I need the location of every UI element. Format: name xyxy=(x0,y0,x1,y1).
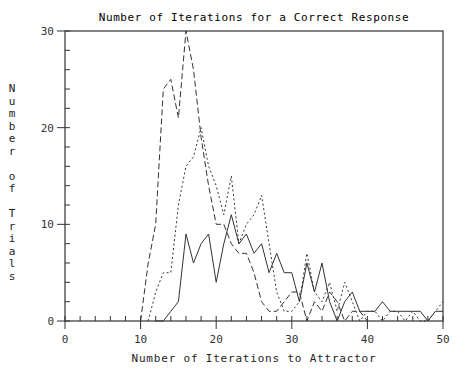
y-label-char: u xyxy=(9,95,16,108)
x-tick-label: 50 xyxy=(436,333,449,346)
plot-border xyxy=(65,31,443,321)
y-tick-label: 30 xyxy=(41,25,54,38)
series-layer xyxy=(141,31,443,321)
y-tick-label: 0 xyxy=(47,315,54,328)
x-axis-label: Number of Iterations to Attractor xyxy=(132,352,377,365)
series-long-dash xyxy=(141,31,368,321)
x-tick-label: 0 xyxy=(62,333,69,346)
chart-title: Number of Iterations for a Correct Respo… xyxy=(99,11,410,24)
y-axis-label: NumberofTrials xyxy=(9,82,16,283)
y-label-char: l xyxy=(9,257,16,270)
series-solid xyxy=(156,215,443,321)
y-label-char: a xyxy=(9,245,16,258)
y-label-char: o xyxy=(9,170,16,183)
y-label-char: r xyxy=(9,220,16,233)
plot-frame xyxy=(65,31,443,321)
x-tick-label: 20 xyxy=(210,333,223,346)
y-label-char: b xyxy=(9,120,16,133)
y-label-char: f xyxy=(9,182,16,195)
y-label-char: s xyxy=(9,270,16,283)
y-label-char: T xyxy=(9,207,16,220)
x-tick-label: 30 xyxy=(285,333,298,346)
x-tick-label: 10 xyxy=(134,333,147,346)
line-chart: Number of Iterations for a Correct Respo… xyxy=(0,0,465,378)
y-axis: 0102030 xyxy=(41,25,70,328)
y-label-char: N xyxy=(9,82,16,95)
y-label-char: e xyxy=(9,132,16,145)
y-tick-label: 10 xyxy=(41,218,54,231)
y-label-char: i xyxy=(9,232,16,245)
x-tick-label: 40 xyxy=(361,333,374,346)
y-label-char: r xyxy=(9,145,16,158)
y-label-char: m xyxy=(9,107,16,120)
y-tick-label: 20 xyxy=(41,122,54,135)
